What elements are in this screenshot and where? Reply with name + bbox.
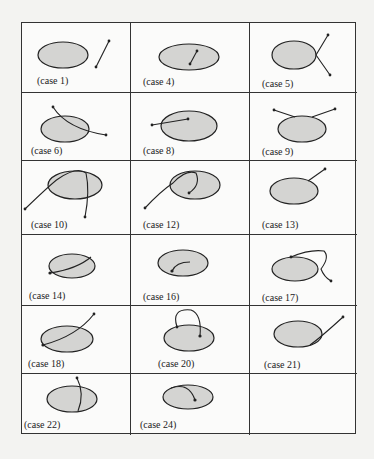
cell-case-16: (case 16) (131, 235, 250, 306)
cell-case-12: (case 12) (131, 161, 250, 235)
case-label: (case 16) (143, 291, 179, 302)
case-label: (case 18) (28, 358, 64, 369)
cell-case-5: (case 5) (250, 23, 357, 93)
cell-case-13: (case 13) (250, 161, 357, 235)
cell-case-6: (case 6) (22, 93, 131, 161)
cell-case-1: (case 1) (22, 23, 131, 93)
case-label: (case 12) (143, 219, 179, 230)
case-label: (case 5) (262, 78, 293, 89)
case-grid: (case 1) (case 4) (case 5) (case 6) (21, 22, 356, 434)
cell-case-8: (case 8) (131, 93, 250, 161)
case-label: (case 17) (262, 292, 298, 303)
cell-case-4: (case 4) (131, 23, 250, 93)
cell-case-14: (case 14) (22, 235, 131, 306)
case-label: (case 10) (31, 219, 67, 230)
cell-case-17: (case 17) (250, 235, 357, 306)
cell-case-21: (case 21) (250, 306, 357, 374)
cell-case-20: (case 20) (131, 306, 250, 374)
case-label: (case 6) (31, 145, 62, 156)
case-label: (case 24) (140, 419, 176, 430)
cell-case-10: (case 10) (22, 161, 131, 235)
case-label: (case 14) (29, 290, 65, 301)
case-label: (case 1) (37, 75, 68, 86)
cell-case-18: (case 18) (22, 306, 131, 374)
case-label: (case 8) (143, 145, 174, 156)
cell-case-22: (case 22) (22, 374, 131, 435)
case-label: (case 9) (262, 146, 293, 157)
case-label: (case 20) (158, 358, 194, 369)
case-label: (case 21) (264, 359, 300, 370)
case-label: (case 4) (143, 76, 174, 87)
cell-case-9: (case 9) (250, 93, 357, 161)
case-label: (case 22) (24, 419, 60, 430)
case-label: (case 13) (262, 219, 298, 230)
cell-empty (250, 374, 357, 435)
cell-case-24: (case 24) (131, 374, 250, 435)
